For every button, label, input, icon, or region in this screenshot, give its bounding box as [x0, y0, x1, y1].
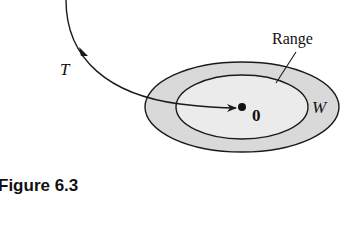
zero-vector-label: 0 [252, 106, 261, 125]
t-direction-arrow-icon [79, 47, 88, 56]
transformation-label: T [60, 60, 71, 79]
zero-vector-dot [238, 103, 246, 111]
figure-caption: Figure 6.3 [0, 176, 78, 196]
codomain-label: W [312, 98, 328, 117]
range-label: Range [272, 30, 313, 48]
